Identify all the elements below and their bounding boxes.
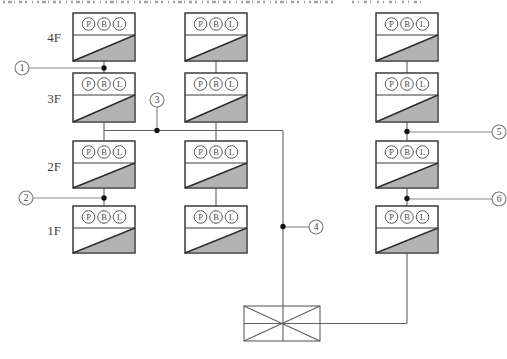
junction-dot-4	[280, 224, 285, 229]
pbl-letter-B: B	[101, 79, 107, 89]
pbl-letter-P: P	[86, 19, 91, 29]
pbl-letter-B: B	[213, 79, 219, 89]
pbl-letter-P: P	[389, 212, 394, 222]
pbl-letter-L: L	[229, 212, 234, 222]
callout-4-number: 4	[314, 222, 319, 232]
pbl-letter-L: L	[229, 79, 234, 89]
pbl-letter-L: L	[229, 19, 234, 29]
pbl-letter-B: B	[213, 19, 219, 29]
pbl-letter-L: L	[117, 212, 122, 222]
pbl-letter-P: P	[86, 79, 91, 89]
pbl-letter-P: P	[389, 147, 394, 157]
panel-3F-col2: PBL	[185, 73, 247, 122]
callout-1-number: 1	[20, 63, 25, 73]
pbl-letter-P: P	[86, 147, 91, 157]
pbl-letter-L: L	[117, 147, 122, 157]
panel-2F-col2: PBL	[185, 141, 247, 188]
pbl-letter-B: B	[213, 212, 219, 222]
pbl-letter-B: B	[404, 147, 410, 157]
panel-1F-col2: PBL	[185, 206, 247, 253]
pbl-letter-B: B	[101, 212, 107, 222]
feeder-lines	[104, 61, 407, 341]
pbl-letter-L: L	[229, 147, 234, 157]
junction-dot-5	[404, 129, 409, 134]
riser-diagram-page: 4F 3F 2F 1F PBLPBLPBLPBLPBLPBLPBLPBLPBLP…	[0, 0, 507, 359]
pbl-letter-P: P	[198, 79, 203, 89]
panel-2F-col1: PBL	[73, 141, 135, 188]
transformer-symbol	[244, 306, 320, 341]
callout-5-number: 5	[497, 127, 502, 137]
panel-4F-col1: PBL	[73, 13, 135, 61]
pbl-letter-L: L	[420, 19, 425, 29]
callout-3-number: 3	[155, 95, 160, 105]
pbl-letter-B: B	[404, 19, 410, 29]
panel-2F-col3: PBL	[376, 141, 438, 188]
pbl-letter-B: B	[404, 79, 410, 89]
callout-3: 3	[150, 93, 164, 128]
pbl-letter-L: L	[420, 79, 425, 89]
pbl-letter-P: P	[389, 79, 394, 89]
callout-2-number: 2	[24, 193, 29, 203]
callout-2: 2	[19, 191, 101, 205]
pbl-letter-L: L	[117, 79, 122, 89]
junction-dot-2	[101, 195, 106, 200]
callout-6: 6	[410, 192, 506, 206]
pbl-letter-P: P	[389, 19, 394, 29]
pbl-letter-B: B	[101, 19, 107, 29]
callout-6-number: 6	[497, 194, 502, 204]
pbl-letter-P: P	[86, 212, 91, 222]
pbl-letter-B: B	[101, 147, 107, 157]
junction-dot-1	[101, 65, 106, 70]
pbl-letter-L: L	[117, 19, 122, 29]
callout-5: 5	[410, 125, 506, 139]
riser-diagram: 4F 3F 2F 1F PBLPBLPBLPBLPBLPBLPBLPBLPBLP…	[0, 0, 507, 359]
panel-3F-col1: PBL	[73, 73, 135, 122]
floor-label-3f: 3F	[47, 91, 61, 106]
junction-dot-3	[154, 128, 159, 133]
floor-label-4f: 4F	[47, 30, 61, 45]
pbl-letter-B: B	[404, 212, 410, 222]
panels-layer: PBLPBLPBLPBLPBLPBLPBLPBLPBLPBLPBLPBL	[73, 13, 438, 253]
panel-4F-col3: PBL	[376, 13, 438, 61]
floor-label-2f: 2F	[47, 159, 61, 174]
pbl-letter-B: B	[213, 147, 219, 157]
junction-dots	[101, 65, 409, 229]
pbl-letter-P: P	[198, 212, 203, 222]
floor-labels: 4F 3F 2F 1F	[47, 30, 61, 238]
panel-1F-col3: PBL	[376, 206, 438, 253]
panel-4F-col2: PBL	[185, 13, 247, 61]
floor-label-1f: 1F	[47, 223, 61, 238]
pbl-letter-P: P	[198, 19, 203, 29]
pbl-letter-P: P	[198, 147, 203, 157]
panel-3F-col3: PBL	[376, 73, 438, 122]
junction-dot-6	[404, 196, 409, 201]
panel-1F-col1: PBL	[73, 206, 135, 253]
callout-4: 4	[286, 220, 323, 234]
pbl-letter-L: L	[420, 212, 425, 222]
pbl-letter-L: L	[420, 147, 425, 157]
